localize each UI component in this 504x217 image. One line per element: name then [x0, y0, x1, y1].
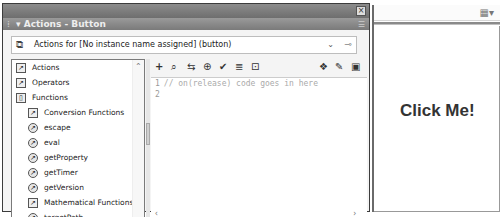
stage-toolbar: ▦▾: [374, 5, 500, 21]
close-icon[interactable]: ×: [356, 6, 366, 16]
code-line: 2: [151, 89, 367, 100]
pin-icon[interactable]: ⊸: [344, 39, 352, 49]
toolbox-item-conversion-functions[interactable]: ↗Conversion Functions: [12, 105, 144, 120]
script-toolbar: + ⌕ ⇆ ⊕ ✔ ≣ ⊡ ❖ ✎ ▣: [151, 59, 367, 77]
toolbox-item-actions[interactable]: ↗Actions: [12, 60, 144, 75]
toolbox-item-getversion[interactable]: ↗getVersion: [12, 180, 144, 195]
insert-target-path-icon[interactable]: ⊕: [203, 61, 211, 72]
replace-icon[interactable]: ⇆: [187, 61, 195, 72]
actions-panel: × ⁞ ▾ Actions - Button ☰ ⧉ Actions for […: [2, 3, 370, 212]
editor-hscrollbar[interactable]: ‹ ›: [151, 209, 367, 217]
find-icon[interactable]: ⌕: [171, 61, 177, 73]
target-label: Actions for [No instance name assigned] …: [34, 40, 231, 49]
function-icon: ↗: [28, 183, 38, 193]
auto-format-icon[interactable]: ≣: [235, 61, 243, 72]
toolbox-item-operators[interactable]: ↗Operators: [12, 75, 144, 90]
button-symbol-icon: ⧉: [16, 39, 23, 51]
target-selector[interactable]: ⧉ Actions for [No instance name assigned…: [11, 36, 357, 54]
view-options-icon[interactable]: ▣: [351, 61, 360, 72]
click-me-button[interactable]: Click Me!: [400, 101, 475, 121]
toolbox-item-escape[interactable]: ↗escape: [12, 120, 144, 135]
scroll-up-icon[interactable]: ⌃: [135, 62, 142, 71]
grip-icon[interactable]: ⁞: [7, 19, 10, 29]
panel-body: ⧉ Actions for [No instance name assigned…: [3, 30, 369, 211]
chevron-down-icon[interactable]: ⌄: [327, 40, 334, 49]
function-icon: ↗: [28, 168, 38, 178]
code-line: 1// on(release) code goes in here: [151, 78, 367, 89]
splitter-handle[interactable]: [146, 123, 150, 145]
function-icon: ↗: [28, 123, 38, 133]
debug-options-icon[interactable]: ❖: [319, 61, 328, 72]
toolbox-item-eval[interactable]: ↗eval: [12, 135, 144, 150]
toolbox-item-mathematical-functions[interactable]: ↗Mathematical Functions: [12, 195, 144, 210]
panel-header[interactable]: ⁞ ▾ Actions - Button ☰: [3, 18, 369, 30]
book-open-icon: ▯: [16, 93, 26, 103]
pane-splitter[interactable]: [146, 59, 150, 217]
edit-symbol-icon[interactable]: ▦▾: [480, 7, 494, 18]
toolbox-scrollbar[interactable]: ⌃ ⌄: [132, 60, 144, 217]
toolbox-item-gettimer[interactable]: ↗getTimer: [12, 165, 144, 180]
book-icon: ↗: [28, 108, 38, 118]
check-syntax-icon[interactable]: ✔: [219, 61, 227, 72]
panel-titlebar[interactable]: ×: [3, 4, 369, 18]
add-item-icon[interactable]: +: [155, 61, 163, 72]
toolbox-item-functions[interactable]: ▯Functions: [12, 90, 144, 105]
function-icon: ↗: [28, 153, 38, 163]
script-editor[interactable]: 1// on(release) code goes in here 2 ‹ ›: [151, 77, 367, 217]
collapse-arrow-icon[interactable]: ▾: [16, 19, 21, 29]
book-icon: ↗: [28, 198, 38, 208]
function-icon: ↗: [28, 138, 38, 148]
scroll-right-icon[interactable]: ›: [352, 209, 357, 217]
code-hint-icon[interactable]: ⊡: [251, 61, 259, 72]
actions-toolbox: ↗Actions ↗Operators ▯Functions ↗Conversi…: [11, 59, 145, 217]
toolbox-item-getproperty[interactable]: ↗getProperty: [12, 150, 144, 165]
toolbox-item-targetpath[interactable]: ↗targetPath: [12, 210, 144, 217]
scroll-left-icon[interactable]: ‹: [154, 209, 159, 217]
function-icon: ↗: [28, 213, 38, 217]
reference-icon[interactable]: ✎: [335, 61, 343, 72]
panel-title: Actions - Button: [24, 19, 106, 29]
book-icon: ↗: [16, 78, 26, 88]
stage-ruler: [374, 22, 500, 25]
book-icon: ↗: [16, 63, 26, 73]
script-pane: + ⌕ ⇆ ⊕ ✔ ≣ ⊡ ❖ ✎ ▣ 1// on(release) code…: [151, 59, 367, 217]
